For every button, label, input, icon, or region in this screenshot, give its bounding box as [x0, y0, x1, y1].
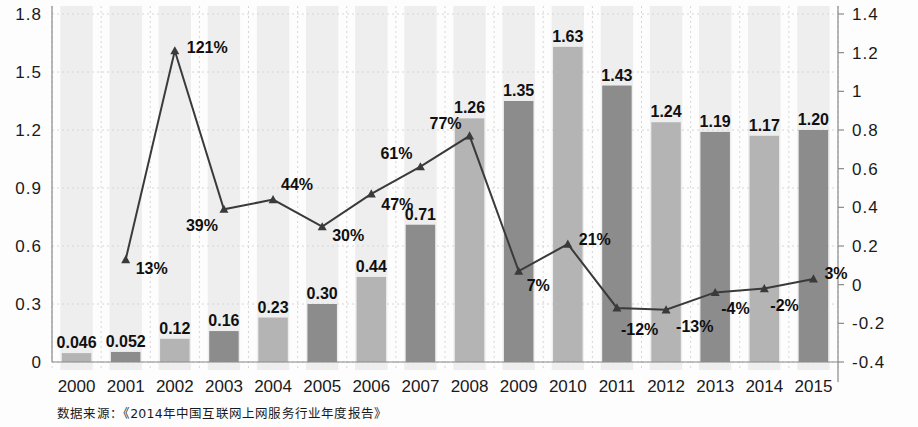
bar — [455, 118, 484, 362]
bar — [750, 136, 779, 362]
category-label: 2010 — [549, 377, 587, 396]
bar — [406, 225, 435, 362]
bar-value-label: 0.052 — [106, 333, 146, 350]
growth-percent-label: 7% — [527, 277, 550, 294]
category-label: 2002 — [156, 377, 194, 396]
bar — [111, 352, 140, 362]
bar-value-label: 1.24 — [650, 103, 681, 120]
growth-percent-label: -12% — [621, 321, 658, 338]
category-label: 2014 — [745, 377, 783, 396]
growth-percent-label: 77% — [430, 115, 462, 132]
right-axis-tick-label: 0.8 — [852, 121, 879, 140]
bar — [504, 101, 533, 362]
growth-percent-label: 39% — [186, 217, 218, 234]
left-axis-tick-label: 0.9 — [15, 179, 42, 198]
source-note: 数据来源：《2014年中国互联网上网服务行业年度报告》 — [57, 403, 387, 422]
bar — [160, 339, 189, 362]
right-axis-tick-label: 1 — [852, 82, 862, 101]
category-label: 2013 — [696, 377, 734, 396]
bar — [799, 130, 828, 362]
bar — [553, 47, 582, 362]
right-axis-tick-label: -0.2 — [852, 314, 885, 333]
bar-value-label: 0.23 — [257, 299, 288, 316]
category-labels: 2000200120022003200420052006200720082009… — [58, 377, 833, 396]
bar — [357, 277, 386, 362]
category-label: 2004 — [254, 377, 292, 396]
category-label: 2007 — [402, 377, 440, 396]
chart-figure: 1.81.51.20.90.60.30 1.41.210.80.60.40.20… — [0, 0, 918, 427]
category-label: 2005 — [303, 377, 341, 396]
category-label: 2011 — [599, 377, 636, 396]
bar-value-label: 1.19 — [700, 113, 731, 130]
bar-value-label: 0.16 — [208, 312, 239, 329]
growth-percent-label: -4% — [721, 300, 749, 317]
right-axis-tick-label: 1.2 — [852, 44, 879, 63]
right-axis-tick-label: 0.2 — [852, 237, 879, 256]
category-label: 2008 — [451, 377, 489, 396]
right-axis-tick-label: 1.4 — [852, 5, 879, 24]
category-label: 2012 — [647, 377, 685, 396]
bar-value-label: 1.43 — [601, 67, 632, 84]
bar-value-label: 1.17 — [749, 117, 780, 134]
category-label: 2015 — [795, 377, 833, 396]
bar-value-label: 1.35 — [503, 82, 534, 99]
right-axis-tick-label: 0.4 — [852, 198, 879, 217]
growth-percent-label: 47% — [381, 196, 413, 213]
bar-value-label: 0.44 — [356, 258, 387, 275]
bar-value-label: 1.20 — [798, 111, 829, 128]
growth-percent-label: 44% — [281, 176, 313, 193]
growth-percent-label: 30% — [332, 227, 364, 244]
left-axis-labels: 1.81.51.20.90.60.30 — [15, 5, 42, 372]
bar — [209, 331, 238, 362]
growth-percent-label: -13% — [676, 318, 713, 335]
bar-value-label: 0.046 — [57, 334, 97, 351]
growth-percent-label: 61% — [380, 145, 412, 162]
left-axis-tick-label: 1.8 — [15, 5, 42, 24]
bar-value-label: 0.12 — [159, 320, 190, 337]
category-label: 2000 — [58, 377, 96, 396]
left-axis-tick-label: 1.5 — [15, 63, 42, 82]
chart-canvas: 1.81.51.20.90.60.30 1.41.210.80.60.40.20… — [0, 0, 918, 427]
right-axis-tick-label: 0 — [852, 276, 862, 295]
left-axis-tick-label: 0 — [32, 353, 42, 372]
growth-percent-label: -2% — [770, 297, 798, 314]
growth-percent-label: 13% — [136, 260, 168, 277]
bar-value-label: 0.30 — [307, 285, 338, 302]
left-axis-tick-label: 0.6 — [15, 237, 42, 256]
bar-value-label: 1.63 — [552, 28, 583, 45]
growth-percent-label: 121% — [187, 39, 228, 56]
right-axis-tick-label: 0.6 — [852, 160, 879, 179]
category-label: 2001 — [107, 377, 145, 396]
category-label: 2009 — [500, 377, 538, 396]
growth-percent-label: 21% — [579, 231, 611, 248]
bar — [258, 318, 287, 362]
category-label: 2006 — [352, 377, 390, 396]
left-axis-tick-label: 0.3 — [15, 295, 42, 314]
right-axis-labels: 1.41.210.80.60.40.20-0.2-0.4 — [852, 5, 885, 372]
bar — [307, 304, 336, 362]
category-label: 2003 — [205, 377, 243, 396]
bar — [62, 353, 91, 362]
right-axis-tick-label: -0.4 — [852, 353, 885, 372]
left-axis-tick-label: 1.2 — [15, 121, 42, 140]
growth-percent-label: 3% — [824, 265, 847, 282]
